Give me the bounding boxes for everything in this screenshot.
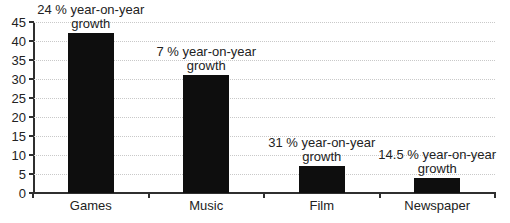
- x-tick-label-newspaper: Newspaper: [404, 198, 470, 213]
- x-tick-mark-4: [494, 193, 496, 198]
- bar-games: [68, 33, 114, 193]
- y-tick-label-35: 35: [0, 54, 26, 67]
- y-tick-mark-40: [29, 40, 34, 42]
- y-tick-label-15: 15: [0, 130, 26, 143]
- annotation-games: 24 % year-on-yeargrowth: [37, 3, 144, 31]
- annotation-film: 31 % year-on-yeargrowth: [268, 136, 375, 164]
- annotation-line: 7 % year-on-year: [156, 45, 256, 59]
- y-tick-label-45: 45: [0, 16, 26, 29]
- x-tick-mark-2: [263, 193, 265, 198]
- x-tick-label-film: Film: [309, 198, 334, 213]
- bar-chart-figure: 24 % year-on-yeargrowth7 % year-on-yearg…: [0, 0, 510, 223]
- y-tick-label-10: 10: [0, 149, 26, 162]
- x-tick-mark-0: [32, 193, 34, 198]
- bar-music: [183, 75, 229, 193]
- y-tick-label-40: 40: [0, 35, 26, 48]
- annotation-line: 24 % year-on-year: [37, 3, 144, 17]
- annotation-line: 31 % year-on-year: [268, 136, 375, 150]
- annotation-music: 7 % year-on-yeargrowth: [156, 45, 256, 73]
- y-tick-label-20: 20: [0, 111, 26, 124]
- x-tick-mark-3: [379, 193, 381, 198]
- y-tick-label-25: 25: [0, 92, 26, 105]
- y-tick-mark-5: [29, 173, 34, 175]
- annotation-line: growth: [156, 59, 256, 73]
- y-tick-mark-20: [29, 116, 34, 118]
- x-tick-label-games: Games: [70, 198, 112, 213]
- x-tick-label-music: Music: [189, 198, 223, 213]
- y-tick-label-30: 30: [0, 73, 26, 86]
- bar-film: [299, 166, 345, 193]
- y-tick-label-0: 0: [0, 187, 26, 200]
- annotation-line: growth: [37, 17, 144, 31]
- annotation-line: growth: [378, 162, 496, 176]
- y-tick-label-5: 5: [0, 168, 26, 181]
- y-tick-mark-35: [29, 59, 34, 61]
- y-tick-mark-25: [29, 97, 34, 99]
- y-tick-mark-10: [29, 154, 34, 156]
- y-tick-mark-45: [29, 21, 34, 23]
- x-tick-mark-1: [148, 193, 150, 198]
- annotation-newspaper: 14.5 % year-on-yeargrowth: [378, 148, 496, 176]
- y-tick-mark-30: [29, 78, 34, 80]
- bar-newspaper: [414, 178, 460, 193]
- annotation-line: 14.5 % year-on-year: [378, 148, 496, 162]
- y-tick-mark-15: [29, 135, 34, 137]
- plot-area: 24 % year-on-yeargrowth7 % year-on-yearg…: [33, 22, 495, 193]
- annotation-line: growth: [268, 150, 375, 164]
